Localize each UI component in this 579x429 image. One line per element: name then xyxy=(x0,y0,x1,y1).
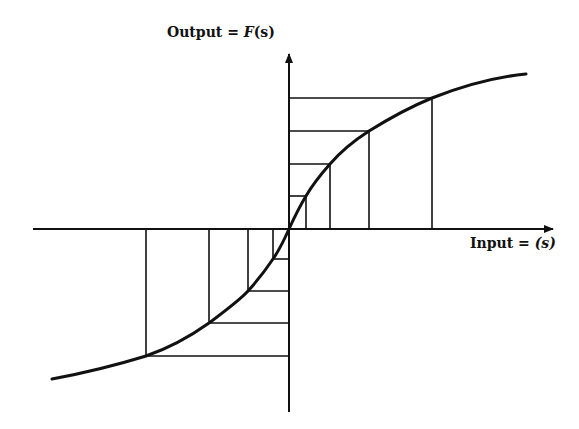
left-step-lines xyxy=(146,229,289,356)
sigmoid-diagram xyxy=(0,0,579,429)
x-axis-label: Input = (s) xyxy=(470,235,556,251)
y-axis-label: Output = F(s) xyxy=(167,24,275,40)
right-step-lines xyxy=(289,98,432,229)
